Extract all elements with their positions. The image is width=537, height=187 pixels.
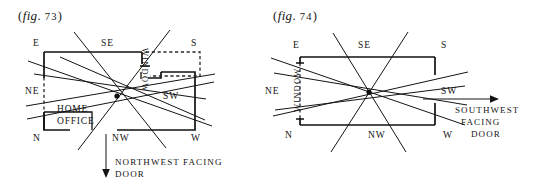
figure-73-label-S: S xyxy=(191,38,197,48)
figure-73-label-NE: NE xyxy=(25,86,39,96)
figure-73-window-label: WINDOW xyxy=(140,48,150,93)
figure-74-label-NE: NE xyxy=(265,86,279,96)
figure-73-door-annotation-line1: NORTHWEST FACING xyxy=(115,156,222,168)
figure-74-plan-drawing xyxy=(265,0,537,187)
figure-74-door-annotation-line2: FACING xyxy=(455,116,519,128)
figure-74-door-arrow xyxy=(423,95,499,103)
figure-73-door-annotation: NORTHWEST FACING DOOR xyxy=(115,156,222,180)
figure-74-label-S: S xyxy=(441,40,447,50)
figure-74-compass-hub xyxy=(366,89,371,94)
figure-74-label-NW: NW xyxy=(368,130,386,140)
figure-74-label-SE: SE xyxy=(358,40,371,50)
figure-73-label-E: E xyxy=(33,38,40,48)
figure-74-label-N: N xyxy=(285,130,293,140)
figure-73-ray-ne-sw xyxy=(28,61,212,126)
figure-73-ray-n-s xyxy=(27,82,214,119)
figure-73-compass-hub xyxy=(114,93,119,98)
figure-73-door-arrow xyxy=(102,134,110,178)
figure-73-label-SW: SW xyxy=(163,91,179,101)
figure-73-room-label-line2: OFFICE xyxy=(57,116,95,128)
figure-74-label-SW: SW xyxy=(441,86,457,96)
figure-74-window-label: WINDOW xyxy=(292,68,302,113)
diagram-page: (fig. 73) xyxy=(0,0,537,187)
figure-73: (fig. 73) xyxy=(0,0,269,187)
figure-74: (fig. 74) xyxy=(265,0,537,187)
figure-73-room-label: HOME OFFICE xyxy=(57,104,95,127)
figure-73-label-NW: NW xyxy=(112,133,130,143)
figure-73-label-SE: SE xyxy=(101,38,114,48)
figure-73-room-label-line1: HOME xyxy=(57,104,95,116)
figure-73-compass-rays xyxy=(26,30,215,150)
figure-73-label-N: N xyxy=(33,133,41,143)
figure-74-door-annotation: SOUTHWEST FACING DOOR xyxy=(455,104,519,140)
figure-73-label-W: W xyxy=(191,133,201,143)
figure-74-door-annotation-line3: DOOR xyxy=(455,128,519,140)
figure-74-ray-flat xyxy=(275,86,465,110)
figure-73-ray-s-n xyxy=(78,30,170,150)
figure-74-label-W: W xyxy=(443,130,453,140)
figure-74-door-annotation-line1: SOUTHWEST xyxy=(455,104,519,116)
figure-73-door-annotation-line2: DOOR xyxy=(115,168,222,180)
figure-74-label-E: E xyxy=(293,40,300,50)
